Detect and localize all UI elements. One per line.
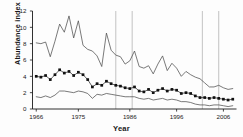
series-line-3 [36,91,233,107]
series-line-1 [36,16,233,90]
data-point-marker [147,88,150,91]
data-point-marker [96,82,99,85]
data-point-marker [152,91,155,94]
data-point-marker [189,92,192,95]
data-point-marker [63,72,66,75]
data-point-marker [124,86,127,89]
series-line-2 [36,70,233,100]
data-point-marker [157,89,160,92]
data-point-marker [40,76,43,79]
data-point-marker [72,74,75,77]
data-point-marker [208,97,211,100]
data-point-marker [199,96,202,99]
data-point-marker [91,86,94,89]
data-point-marker [35,75,38,78]
data-point-marker [203,96,206,99]
data-point-marker [86,78,89,81]
data-point-marker [222,98,225,101]
data-point-marker [100,84,103,87]
data-point-marker [138,90,141,93]
data-point-marker [44,74,47,77]
data-point-marker [110,82,113,85]
data-point-marker [231,98,234,101]
data-point-marker [49,78,52,81]
data-point-marker [54,73,57,76]
data-point-marker [213,96,216,99]
data-point-marker [217,97,220,100]
data-point-marker [185,91,188,94]
data-point-marker [68,70,71,73]
reference-lines [116,11,219,109]
data-point-marker [105,80,108,83]
data-point-marker [227,99,230,102]
data-point-marker [128,87,131,90]
data-point-marker [175,89,178,92]
data-point-marker [82,73,85,76]
data-point-marker [171,88,174,91]
data-point-marker [77,71,80,74]
data-point-marker [58,68,61,71]
data-point-marker [114,84,117,87]
data-point-marker [166,90,169,93]
data-point-marker [119,85,122,88]
abundance-index-chart: Abundance index Year 024681012 196619751… [0,0,243,137]
data-point-marker [133,86,136,89]
data-point-marker [180,92,183,95]
data-point-marker [194,95,197,98]
data-point-marker [161,87,164,90]
plot-area [0,0,243,137]
data-point-marker [143,91,146,94]
data-series-layer [36,16,233,107]
